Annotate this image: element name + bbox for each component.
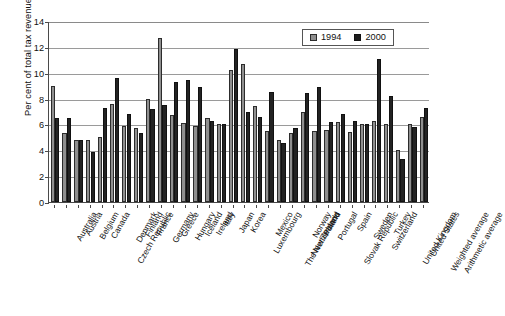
- bar-group: [394, 22, 406, 202]
- bar: [146, 99, 150, 202]
- bar-group: [49, 22, 61, 202]
- bar: [277, 140, 281, 202]
- bar: [62, 133, 66, 202]
- x-tick-mark: [233, 205, 234, 208]
- bar: [51, 86, 55, 202]
- x-tick-mark: [102, 205, 103, 208]
- x-tick-mark: [90, 205, 91, 208]
- bar-group: [228, 22, 240, 202]
- bar: [139, 133, 143, 202]
- bar: [198, 87, 202, 202]
- bar-group: [109, 22, 121, 202]
- bar: [127, 114, 131, 202]
- chart-legend: 19942000: [302, 29, 394, 46]
- bar: [246, 112, 250, 203]
- legend-swatch-icon: [354, 34, 361, 41]
- x-tick-mark: [197, 205, 198, 208]
- y-tick-label-0: 0: [39, 198, 44, 208]
- x-tick-mark: [364, 205, 365, 208]
- bar-group: [359, 22, 371, 202]
- bar-group: [370, 22, 382, 202]
- x-tick-mark: [292, 205, 293, 208]
- x-tick-mark: [149, 205, 150, 208]
- bar: [115, 78, 119, 202]
- y-tick-label-10: 10: [34, 69, 44, 79]
- x-tick-mark: [173, 205, 174, 208]
- bar: [348, 132, 352, 202]
- bar-group: [144, 22, 156, 202]
- bar-group: [382, 22, 394, 202]
- bar: [265, 131, 269, 202]
- y-tick-label-4: 4: [39, 146, 44, 156]
- bar: [74, 140, 78, 202]
- bar-group: [180, 22, 192, 202]
- bar-group: [240, 22, 252, 202]
- bar-group: [251, 22, 263, 202]
- bar: [412, 127, 416, 202]
- y-tick-label-6: 6: [39, 120, 44, 130]
- bar-group: [299, 22, 311, 202]
- x-tick-mark: [221, 205, 222, 208]
- x-tick-mark: [387, 205, 388, 208]
- bar: [408, 124, 412, 202]
- bar: [158, 38, 162, 202]
- bar: [353, 121, 357, 202]
- x-tick-mark: [352, 205, 353, 208]
- bar: [289, 133, 293, 202]
- bar: [162, 105, 166, 202]
- y-tick-mark-0: [45, 203, 49, 204]
- y-tick-label-8: 8: [39, 95, 44, 105]
- x-tick-mark: [411, 205, 412, 208]
- bar: [258, 117, 262, 202]
- bar-group: [347, 22, 359, 202]
- legend-swatch-icon: [310, 34, 317, 41]
- x-tick-mark: [185, 205, 186, 208]
- legend-label: 2000: [365, 32, 385, 42]
- bar: [400, 159, 404, 202]
- bar: [301, 112, 305, 203]
- bar: [103, 108, 107, 202]
- bar-group: [61, 22, 73, 202]
- x-tick-mark: [209, 205, 210, 208]
- legend-entry-1994: 1994: [310, 32, 341, 42]
- bar: [336, 122, 340, 202]
- bar: [420, 117, 424, 202]
- bar: [193, 126, 197, 202]
- x-tick-mark: [125, 205, 126, 208]
- bar: [341, 114, 345, 202]
- bar: [324, 130, 328, 202]
- bar-group: [192, 22, 204, 202]
- y-axis-title: Per cent of total tax revenue: [23, 0, 33, 147]
- bar: [384, 124, 388, 202]
- x-tick-mark: [244, 205, 245, 208]
- bar: [312, 131, 316, 202]
- x-tick-mark: [316, 205, 317, 208]
- bar: [98, 137, 102, 202]
- y-tick-label-2: 2: [39, 172, 44, 182]
- x-tick-mark: [375, 205, 376, 208]
- bar: [181, 123, 185, 202]
- x-tick-mark: [161, 205, 162, 208]
- bar: [293, 128, 297, 202]
- x-tick-mark: [268, 205, 269, 208]
- bar-group: [132, 22, 144, 202]
- bar: [305, 93, 309, 202]
- bar: [150, 109, 154, 202]
- x-tick-mark: [78, 205, 79, 208]
- bar: [186, 80, 190, 202]
- y-tick-label-12: 12: [34, 43, 44, 53]
- bar-group: [323, 22, 335, 202]
- bar: [217, 124, 221, 202]
- bar: [269, 92, 273, 202]
- bar-group: [156, 22, 168, 202]
- bar: [317, 87, 321, 202]
- x-tick-mark: [328, 205, 329, 208]
- bar-group: [406, 22, 418, 202]
- bar-group: [311, 22, 323, 202]
- bar-group: [97, 22, 109, 202]
- bar: [229, 70, 233, 202]
- bar: [174, 82, 178, 202]
- bar: [253, 106, 257, 202]
- bar-group: [168, 22, 180, 202]
